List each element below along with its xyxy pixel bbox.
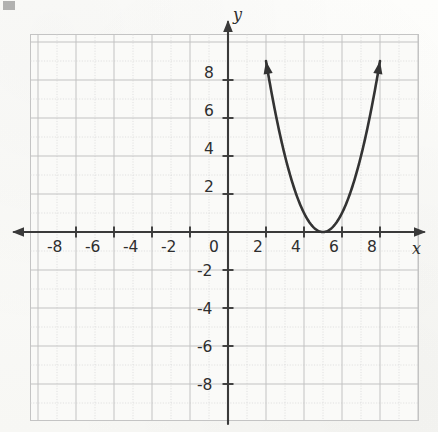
x-tick-label: 4: [291, 238, 301, 256]
x-tick-label: -8: [47, 238, 62, 256]
y-tick-label: -8: [197, 376, 212, 394]
y-tick-label: 2: [204, 178, 214, 196]
y-axis-label: y: [233, 5, 242, 24]
y-tick-label: 6: [204, 102, 214, 120]
y-tick-label: 8: [204, 64, 214, 82]
x-tick-label: -2: [161, 238, 176, 256]
x-tick-label: 8: [367, 238, 377, 256]
x-tick-label: 6: [329, 238, 339, 256]
y-tick-label: -6: [197, 338, 212, 356]
x-tick-label: -4: [123, 238, 138, 256]
grid-frame: [31, 35, 419, 421]
graph-figure: -8 -6 -4 -2 0 2 4 6 8 8 6 4 2 -2 -4 -6 -…: [0, 0, 438, 432]
y-tick-label: -2: [197, 262, 212, 280]
origin-label: 0: [209, 238, 219, 256]
x-axis-arrow-right: [414, 227, 426, 237]
y-axis-arrow-up: [223, 20, 233, 32]
y-tick-label: 4: [204, 140, 214, 158]
x-tick-label: 2: [253, 238, 263, 256]
x-axis-arrow-left: [12, 227, 24, 237]
coordinate-plane: [0, 0, 438, 432]
x-tick-label: -6: [85, 238, 100, 256]
y-tick-label: -4: [197, 300, 212, 318]
x-axis-label: x: [412, 239, 421, 258]
